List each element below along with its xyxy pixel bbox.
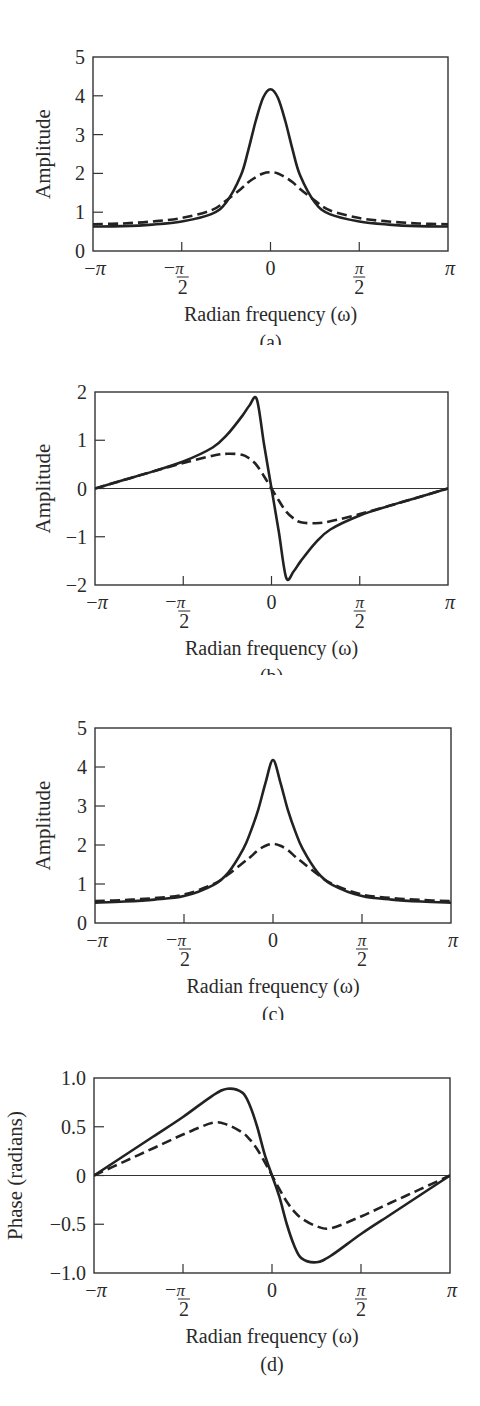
svg-text:2: 2 — [180, 948, 190, 970]
phase-chart-d: −1.0−0.500.51.0−π−π20π2πPhase (radians)R… — [0, 1020, 480, 1406]
y-tick-label: 1.0 — [61, 1067, 86, 1089]
amplitude-chart-b: −2−1012−π−π20π2πAmplitudeRadian frequenc… — [0, 345, 480, 675]
x-tick-label-pi: π — [445, 591, 456, 613]
svg-text:2: 2 — [354, 276, 364, 298]
y-tick-label: −2 — [66, 574, 87, 596]
chart-panel-c: 012345−π−π20π2πAmplitudeRadian frequency… — [0, 675, 480, 1020]
y-tick-label: 0.5 — [61, 1116, 86, 1138]
panel-caption: (a) — [259, 331, 281, 345]
x-tick-label-zero: 0 — [268, 929, 278, 951]
x-tick-labels: −π−π20π2π — [86, 590, 456, 632]
y-tick-label: 3 — [77, 795, 87, 817]
x-tick-label-neg-pi: −π — [86, 591, 108, 613]
y-tick-label: 1 — [75, 201, 85, 223]
x-tick-label-pi: π — [447, 1279, 458, 1301]
panel-caption: (d) — [260, 1353, 283, 1376]
solid-curve — [95, 760, 451, 903]
panel-caption: (b) — [260, 665, 283, 675]
amplitude-chart-a: 012345−π−π20π2πAmplitudeRadian frequency… — [0, 0, 480, 345]
panel-caption: (c) — [262, 1003, 284, 1020]
x-tick-labels: −π−π20π2π — [86, 928, 459, 970]
svg-text:2: 2 — [178, 276, 188, 298]
x-axis-label: Radian frequency (ω) — [185, 637, 358, 660]
y-tick-label: −1.0 — [50, 1262, 86, 1284]
y-tick-label: 5 — [77, 717, 87, 739]
x-tick-labels: −π−π20π2π — [85, 1278, 458, 1320]
x-tick-label-zero: 0 — [266, 257, 276, 279]
x-axis-label: Radian frequency (ω) — [186, 975, 359, 998]
y-tick-label: 5 — [75, 46, 85, 68]
x-tick-label-neg-pi: −π — [85, 1279, 107, 1301]
solid-curve — [93, 89, 448, 226]
x-tick-label-neg-pi: −π — [86, 929, 108, 951]
y-tick-label: −0.5 — [50, 1213, 86, 1235]
svg-text:2: 2 — [179, 610, 189, 632]
y-axis-label: Amplitude — [31, 444, 55, 534]
x-tick-label-neg-pi: −π — [84, 257, 106, 279]
y-axis-label: Phase (radians) — [3, 1111, 27, 1240]
x-tick-label-neg-half-pi: −π — [166, 928, 186, 950]
y-tick-label: 1 — [77, 429, 87, 451]
x-tick-label-neg-half-pi: −π — [165, 590, 185, 612]
x-tick-label-neg-half-pi: −π — [164, 256, 184, 278]
amplitude-chart-c: 012345−π−π20π2πAmplitudeRadian frequency… — [0, 675, 480, 1020]
svg-text:2: 2 — [355, 610, 365, 632]
dashed-curve — [93, 172, 448, 224]
chart-panel-d: −1.0−0.500.51.0−π−π20π2πPhase (radians)R… — [0, 1020, 480, 1406]
y-tick-label: 2 — [77, 381, 87, 403]
x-tick-label-zero: 0 — [267, 591, 277, 613]
y-tick-label: 0 — [77, 478, 87, 500]
y-tick-label: 1 — [77, 873, 87, 895]
y-axis-label: Amplitude — [31, 109, 55, 199]
chart-panel-b: −2−1012−π−π20π2πAmplitudeRadian frequenc… — [0, 345, 480, 675]
x-tick-label-pi: π — [448, 929, 459, 951]
x-tick-label-pi: π — [445, 257, 456, 279]
plot-frame — [95, 728, 451, 923]
y-tick-label: 4 — [75, 85, 85, 107]
x-tick-label-zero: 0 — [267, 1279, 277, 1301]
y-axis-label: Amplitude — [31, 781, 55, 871]
svg-text:2: 2 — [356, 1298, 366, 1320]
dashed-curve — [95, 844, 451, 901]
x-axis-label: Radian frequency (ω) — [185, 1325, 358, 1348]
svg-text:2: 2 — [179, 1298, 189, 1320]
y-tick-label: 2 — [77, 834, 87, 856]
x-tick-labels: −π−π20π2π — [84, 256, 456, 298]
chart-panel-a: 012345−π−π20π2πAmplitudeRadian frequency… — [0, 0, 480, 345]
x-tick-label-neg-half-pi: −π — [165, 1278, 185, 1300]
x-axis-label: Radian frequency (ω) — [184, 303, 357, 326]
svg-text:2: 2 — [357, 948, 367, 970]
y-tick-label: 0 — [76, 1165, 86, 1187]
y-tick-label: 4 — [77, 756, 87, 778]
y-tick-label: 2 — [75, 162, 85, 184]
y-tick-label: −1 — [66, 526, 87, 548]
y-tick-label: 3 — [75, 124, 85, 146]
